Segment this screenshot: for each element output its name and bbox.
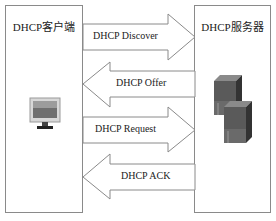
label-ack: DHCP ACK — [121, 170, 170, 181]
label-request: DHCP Request — [95, 123, 156, 134]
label-discover: DHCP Discover — [93, 30, 158, 41]
label-offer: DHCP Offer — [116, 77, 166, 88]
server-towers-icon — [212, 75, 258, 145]
desktop-monitor-icon — [29, 97, 63, 133]
